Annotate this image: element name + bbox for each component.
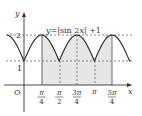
y-tick-2: 2 bbox=[16, 31, 21, 40]
x-axis-label: x bbox=[128, 87, 133, 96]
graph: y x O 2 1 y=|sin 2x| +1 π4π23π4π5π4 bbox=[0, 0, 142, 116]
y-axis-label: y bbox=[14, 9, 20, 18]
svg-text:π: π bbox=[56, 89, 62, 97]
x-tick-3: π bbox=[91, 88, 97, 96]
x-tick-1: π2 bbox=[55, 89, 63, 106]
svg-text:π: π bbox=[38, 89, 44, 97]
x-tick-2: 3π4 bbox=[72, 89, 81, 106]
svg-text:4: 4 bbox=[39, 98, 44, 106]
origin-label: O bbox=[14, 88, 21, 97]
svg-text:4: 4 bbox=[110, 98, 115, 106]
svg-text:π: π bbox=[91, 88, 97, 96]
svg-text:3π: 3π bbox=[72, 89, 81, 97]
svg-text:5π: 5π bbox=[107, 89, 116, 97]
y-tick-1: 1 bbox=[17, 64, 22, 73]
y-axis-arrow-icon bbox=[22, 12, 26, 17]
x-tick-4: 5π4 bbox=[107, 89, 116, 106]
x-tick-labels: π4π23π4π5π4 bbox=[38, 88, 117, 106]
svg-text:4: 4 bbox=[75, 98, 80, 106]
x-tick-0: π4 bbox=[38, 89, 46, 106]
svg-text:y=|sin 2x| +1: y=|sin 2x| +1 bbox=[45, 26, 101, 35]
svg-text:2: 2 bbox=[57, 98, 61, 106]
equation-label: y=|sin 2x| +1 bbox=[45, 26, 101, 35]
